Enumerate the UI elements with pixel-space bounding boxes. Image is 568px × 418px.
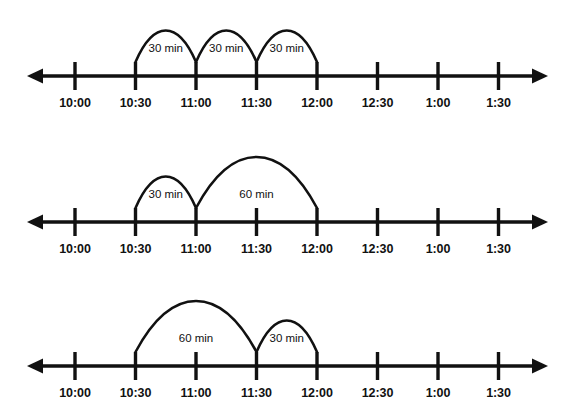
tick-label: 12:30 — [362, 242, 393, 256]
jump-arc-label: 60 min — [239, 188, 274, 200]
tick-label: 10:30 — [120, 96, 151, 110]
jump-arc — [136, 301, 257, 352]
tick-label: 10:00 — [59, 386, 90, 400]
tick-label: 11:30 — [241, 96, 272, 110]
jump-arc-label: 30 min — [269, 332, 304, 344]
tick-label: 12:30 — [362, 96, 393, 110]
tick-label: 11:00 — [181, 242, 212, 256]
jump-arc — [196, 157, 317, 208]
jump-arc-label: 30 min — [148, 188, 183, 200]
tick-label: 1:30 — [486, 386, 511, 400]
tick-label: 11:00 — [181, 386, 212, 400]
timeline-1: 10:0010:3011:0011:3012:0012:301:001:3030… — [0, 0, 568, 146]
tick-label: 1:00 — [426, 386, 451, 400]
tick-label: 10:30 — [120, 386, 151, 400]
jump-arc-label: 60 min — [179, 332, 214, 344]
tick-label: 11:30 — [241, 242, 272, 256]
timeline-3: 10:0010:3011:0011:3012:0012:301:001:3060… — [0, 290, 568, 418]
jump-arc-label: 30 min — [209, 42, 244, 54]
number-line-diagram: 10:0010:3011:0011:3012:0012:301:001:3030… — [0, 0, 568, 418]
tick-label: 10:00 — [59, 242, 90, 256]
right-arrowhead-icon — [532, 215, 548, 230]
tick-label: 1:00 — [426, 96, 451, 110]
jump-arc-label: 30 min — [148, 42, 183, 54]
tick-label: 1:00 — [426, 242, 451, 256]
tick-label: 11:30 — [241, 386, 272, 400]
timeline-2: 10:0010:3011:0011:3012:0012:301:001:3030… — [0, 146, 568, 292]
left-arrowhead-icon — [27, 359, 43, 374]
tick-label: 10:00 — [59, 96, 90, 110]
timeline-2-graphics — [0, 146, 568, 292]
tick-label: 12:00 — [301, 242, 332, 256]
tick-label: 12:00 — [301, 386, 332, 400]
tick-label: 11:00 — [181, 96, 212, 110]
left-arrowhead-icon — [27, 69, 43, 84]
jump-arc-label: 30 min — [269, 42, 304, 54]
tick-label: 12:00 — [301, 96, 332, 110]
left-arrowhead-icon — [27, 215, 43, 230]
right-arrowhead-icon — [532, 69, 548, 84]
tick-label: 1:30 — [486, 96, 511, 110]
right-arrowhead-icon — [532, 359, 548, 374]
tick-label: 1:30 — [486, 242, 511, 256]
tick-label: 10:30 — [120, 242, 151, 256]
tick-label: 12:30 — [362, 386, 393, 400]
timeline-1-graphics — [0, 0, 568, 146]
